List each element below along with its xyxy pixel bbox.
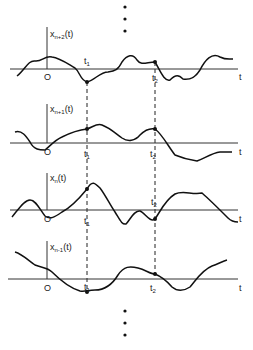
- sample-point-t2: [153, 127, 157, 131]
- origin-label: O: [44, 72, 51, 82]
- sample-point-t1: [85, 187, 89, 191]
- panel-label: xn+1(t): [50, 104, 73, 115]
- panel-xn1: xn+1(t) O t1 t2 t: [10, 104, 242, 161]
- panel-xn-minus1: xn-1(t) O t1 t2 t: [8, 241, 242, 294]
- panel-label: xn(t): [50, 173, 66, 184]
- origin-label: O: [44, 147, 51, 157]
- panel-xn: xn(t) O t1 t2 t: [10, 173, 242, 227]
- t2-label: t2: [152, 73, 159, 84]
- panel-xn2: xn+2(t) O t1 t2 t: [10, 27, 242, 84]
- time-label: t: [239, 214, 242, 224]
- origin-label: O: [44, 214, 51, 224]
- time-label: t: [239, 283, 242, 293]
- sample-point-t2: [153, 60, 157, 64]
- t1-label: t1: [84, 282, 91, 293]
- time-label: t: [239, 147, 242, 157]
- panel-label: xn+2(t): [50, 29, 73, 40]
- sample-time-lines: [87, 62, 155, 292]
- t1-label: t1: [84, 56, 91, 67]
- t2-label: t2: [150, 149, 157, 160]
- sample-point-t1: [85, 80, 89, 84]
- sample-point-t2: [153, 217, 157, 221]
- time-label: t: [239, 72, 242, 82]
- sample-point-t2: [153, 272, 157, 276]
- t2-label: t2: [150, 283, 157, 294]
- random-process-diagram: xn+2(t) O t1 t2 t xn+1(t) O t1 t2 t xn(t…: [0, 0, 253, 350]
- origin-label: O: [44, 283, 51, 293]
- t1-label: t1: [84, 149, 91, 160]
- t2-label: t2: [151, 197, 158, 208]
- sample-point-t1: [85, 127, 89, 131]
- panel-label: xn-1(t): [50, 242, 72, 253]
- ellipsis-top: [123, 5, 126, 32]
- ellipsis-bottom: [123, 309, 126, 336]
